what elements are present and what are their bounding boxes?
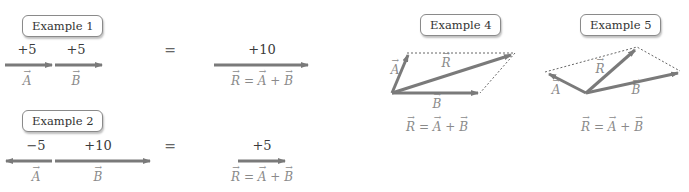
resultant-arrow (392, 55, 511, 93)
vector-a-name: A (391, 63, 400, 77)
vector-a-name: A (552, 83, 561, 97)
vector-a-value: +5 (17, 42, 36, 57)
example-4-parallelogram (392, 53, 515, 93)
equation: R = A + B (581, 120, 643, 134)
equals-sign: = (164, 138, 176, 154)
vector-b-name: B (433, 97, 442, 111)
example-5-label: Example 5 (580, 14, 661, 36)
vector-a-value: −5 (26, 138, 45, 153)
result-equation: R = A + B (231, 74, 293, 88)
result-equation: R = A + B (231, 170, 293, 184)
vector-b-value: +5 (66, 42, 85, 57)
vector-r-name: R (595, 62, 604, 76)
example-1-label: Example 1 (22, 15, 103, 37)
vector-b-name: B (632, 83, 641, 97)
vector-b-value: +10 (84, 138, 111, 153)
result-value: +10 (248, 42, 275, 57)
equation: R = A + B (406, 120, 468, 134)
result-value: +5 (252, 138, 271, 153)
vector-a-name: A (32, 170, 41, 184)
example-2-label: Example 2 (22, 110, 103, 132)
example-5-parallelogram (545, 47, 680, 93)
vector-r-name: R (441, 56, 450, 70)
equals-sign: = (164, 42, 176, 58)
vector-b-name: B (94, 170, 103, 184)
vector-a-name: A (23, 74, 32, 88)
example-4-label: Example 4 (420, 14, 501, 36)
vector-b-name: B (72, 74, 81, 88)
